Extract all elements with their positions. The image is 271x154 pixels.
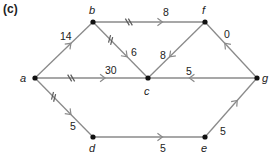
edge-weight-label: 6 — [131, 46, 137, 58]
node-d: d — [89, 134, 96, 154]
edges: 148680305555 — [35, 6, 257, 154]
edge-f-c: 8 — [148, 22, 205, 78]
edge-a-b: 14 — [35, 22, 93, 78]
node-dot — [90, 19, 95, 24]
edge-weight-label: 14 — [60, 30, 72, 42]
node-dot — [90, 134, 95, 139]
edge-weight-label: 5 — [186, 65, 192, 77]
node-label: g — [262, 72, 269, 84]
edge-line — [148, 22, 205, 78]
node-dot — [202, 19, 207, 24]
edge-b-f: 8 — [93, 6, 205, 26]
edge-weight-label: 5 — [160, 142, 166, 154]
node-label: f — [202, 4, 206, 16]
edge-weight-label: 5 — [220, 125, 226, 137]
node-dot — [254, 75, 259, 80]
nodes: abcfgde — [20, 4, 269, 154]
node-f: f — [202, 4, 208, 25]
network-flow-diagram: (c) 148680305555 abcfgde — [0, 0, 271, 154]
edge-a-c: 30 — [35, 64, 148, 82]
edge-weight-label: 0 — [224, 28, 230, 40]
edge-g-f: 0 — [205, 22, 257, 78]
node-g: g — [254, 72, 269, 84]
edge-weight-label: 8 — [160, 49, 166, 61]
node-dot — [202, 134, 207, 139]
edge-line — [205, 22, 257, 78]
edge-weight-label: 5 — [70, 120, 76, 132]
node-dot — [32, 75, 37, 80]
edge-b-c: 6 — [93, 22, 148, 78]
edge-line — [93, 22, 148, 78]
node-dot — [145, 75, 150, 80]
node-label: a — [20, 72, 26, 84]
node-label: c — [144, 85, 150, 97]
edge-line — [35, 78, 93, 137]
edge-g-c: 5 — [148, 65, 257, 82]
figure-label: (c) — [3, 2, 18, 16]
edge-d-e: 5 — [93, 133, 205, 154]
edge-e-g: 5 — [205, 78, 257, 137]
edge-a-d: 5 — [35, 78, 93, 137]
edge-weight-label: 8 — [163, 6, 169, 18]
node-label: e — [201, 142, 207, 154]
node-label: b — [89, 4, 95, 16]
node-a: a — [20, 72, 38, 84]
node-b: b — [89, 4, 96, 25]
edge-weight-label: 30 — [105, 64, 117, 76]
edge-line — [205, 78, 257, 137]
node-label: d — [89, 142, 96, 154]
